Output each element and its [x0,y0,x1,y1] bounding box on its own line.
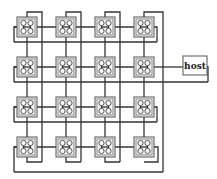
processor-circle-icon [67,60,72,65]
processor-circle-icon [67,100,72,105]
processor-circle-icon [67,28,72,33]
processor-node [17,57,37,77]
processor-node [134,17,154,37]
mesh-diagram: host [0,0,217,179]
processor-circle-icon [145,28,150,33]
processor-node [95,17,115,37]
processor-circle-icon [106,100,111,105]
processor-circle-icon [67,148,72,153]
processor-circle-icon [99,28,104,33]
processor-circle-icon [145,20,150,25]
processor-circle-icon [99,140,104,145]
processor-circle-icon [60,100,65,105]
processor-circle-icon [145,140,150,145]
processor-circle-icon [60,60,65,65]
processor-circle-icon [138,68,143,73]
col-bottom-loop-2 [105,157,120,162]
processor-circle-icon [21,148,26,153]
processor-circle-icon [28,148,33,153]
processor-circle-icon [67,68,72,73]
processor-circle-icon [145,108,150,113]
processor-node [134,97,154,117]
processor-circle-icon [145,68,150,73]
processor-circle-icon [21,60,26,65]
processor-circle-icon [106,28,111,33]
processor-circle-icon [21,108,26,113]
processor-circle-icon [99,148,104,153]
processor-circle-icon [28,100,33,105]
processor-circle-icon [60,108,65,113]
processor-circle-icon [106,68,111,73]
processor-circle-icon [21,68,26,73]
processor-circle-icon [138,20,143,25]
processor-circle-icon [106,148,111,153]
processor-circle-icon [145,148,150,153]
processor-circle-icon [99,68,104,73]
processor-circle-icon [67,140,72,145]
processor-circle-icon [99,20,104,25]
processor-node [95,97,115,117]
processor-node [56,97,76,117]
processor-node [17,137,37,157]
processor-circle-icon [60,140,65,145]
processor-circle-icon [106,20,111,25]
processor-circle-icon [138,100,143,105]
processor-circle-icon [21,140,26,145]
processor-circle-icon [138,28,143,33]
processor-circle-icon [106,60,111,65]
processor-circle-icon [60,68,65,73]
processor-node [56,17,76,37]
processor-circle-icon [28,108,33,113]
processor-circle-icon [138,108,143,113]
processor-node [134,57,154,77]
col-bottom-loop-0 [27,157,42,162]
processor-circle-icon [67,20,72,25]
processor-node [56,137,76,157]
processor-circle-icon [60,20,65,25]
processor-circle-icon [67,108,72,113]
processor-circle-icon [28,28,33,33]
processor-circle-icon [21,20,26,25]
processor-circle-icon [99,60,104,65]
host-node: host [183,56,207,75]
processor-circle-icon [28,60,33,65]
processor-node [17,97,37,117]
processor-circle-icon [106,108,111,113]
processor-circle-icon [138,60,143,65]
host-label: host [184,61,207,71]
processor-circle-icon [99,108,104,113]
processor-circle-icon [28,20,33,25]
processor-circle-icon [21,28,26,33]
processor-circle-icon [138,140,143,145]
processor-node [134,137,154,157]
processor-circle-icon [28,68,33,73]
processor-circle-icon [60,28,65,33]
processor-node [17,17,37,37]
processor-circle-icon [106,140,111,145]
processor-nodes [17,17,154,157]
processor-node [56,57,76,77]
processor-node [95,57,115,77]
processor-circle-icon [21,100,26,105]
processor-circle-icon [145,60,150,65]
processor-node [95,137,115,157]
processor-circle-icon [60,148,65,153]
processor-circle-icon [138,148,143,153]
processor-circle-icon [99,100,104,105]
processor-circle-icon [28,140,33,145]
processor-circle-icon [145,100,150,105]
col-bottom-loop-1 [66,157,81,162]
